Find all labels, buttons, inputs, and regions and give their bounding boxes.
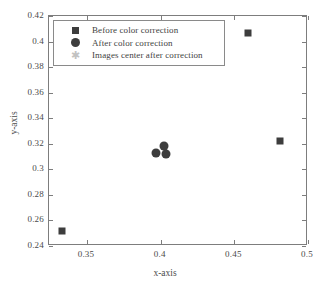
star-marker-icon: ✱ [58,51,92,60]
y-axis-tick [49,169,53,170]
circle-marker-icon [58,38,92,47]
y-axis-tick-label: 0.32 [12,138,44,148]
data-point-square [277,137,284,144]
y-axis-tick [302,118,306,119]
legend-item-after: After color correction [58,37,220,50]
chart-legend: Before color correction After color corr… [53,20,225,66]
legend-label: After color correction [92,38,173,48]
legend-label: Before color correction [92,25,178,35]
legend-item-before: Before color correction [58,24,220,37]
y-axis-tick-label: 0.4 [12,36,44,46]
y-axis-tick-label: 0.24 [12,240,44,250]
y-axis-tick [49,220,53,221]
data-point-circle [151,148,160,157]
data-point-square [245,29,252,36]
x-axis-tick [87,240,88,244]
y-axis-tick [302,169,306,170]
y-axis-tick [302,42,306,43]
data-point-circle [162,149,171,158]
y-axis-tick [302,67,306,68]
legend-item-center: ✱ Images center after correction [58,49,220,62]
x-axis-tick [234,16,235,20]
x-axis-tick-label: 0.4 [154,249,166,259]
y-axis-tick [49,16,53,17]
y-axis-tick-label: 0.34 [12,112,44,122]
x-axis-title: x-axis [0,268,330,278]
y-axis-tick [302,144,306,145]
y-axis-tick [49,93,53,94]
y-axis-tick-label: 0.28 [12,189,44,199]
y-axis-tick-label: 0.38 [12,61,44,71]
y-axis-tick [49,144,53,145]
data-point-square [58,228,65,235]
y-axis-tick [49,195,53,196]
y-axis-tick [302,195,306,196]
y-axis-tick [302,246,306,247]
y-axis-tick [302,220,306,221]
x-axis-tick [308,240,309,244]
x-axis-tick-label: 0.5 [301,249,313,259]
y-axis-tick-label: 0.3 [12,163,44,173]
y-axis-tick-label: 0.36 [12,87,44,97]
square-marker-icon [58,27,92,34]
legend-label: Images center after correction [92,50,203,60]
y-axis-tick-label: 0.26 [12,214,44,224]
x-axis-tick-label: 0.45 [225,249,242,259]
x-axis-tick-label: 0.35 [78,249,95,259]
y-axis-tick [49,67,53,68]
scatter-chart-figure: x-axis y-axis Before color correction Af… [0,0,330,288]
x-axis-tick [234,240,235,244]
y-axis-tick [49,118,53,119]
y-axis-tick-label: 0.42 [12,10,44,20]
y-axis-tick [302,93,306,94]
y-axis-tick [302,16,306,17]
x-axis-tick [308,16,309,20]
y-axis-tick [49,246,53,247]
x-axis-tick [161,240,162,244]
